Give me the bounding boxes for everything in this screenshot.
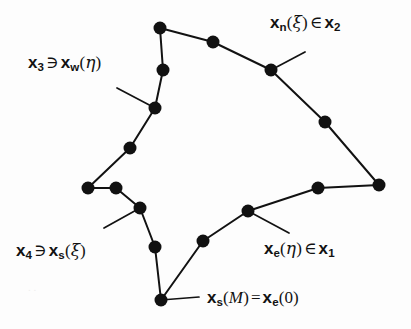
- node-bottom-apex: [155, 294, 168, 307]
- label-east-sub2: 1: [328, 247, 335, 259]
- label-north-operator: ∈: [308, 13, 325, 32]
- node-right-upper: [319, 116, 332, 129]
- label-south-operator: ∋: [32, 241, 49, 260]
- label-west-var2: xw: [61, 53, 80, 72]
- label-corner-arg2: 0: [284, 288, 293, 307]
- node-right-lower: [312, 182, 325, 195]
- label-west-boundary: x3∋xw(η): [28, 54, 101, 73]
- label-south-close: ): [80, 241, 86, 260]
- label-north-sub: n: [280, 21, 287, 33]
- label-east-var2: x1: [319, 239, 335, 258]
- label-east-operator: ∈: [302, 239, 319, 258]
- label-corner-close2: ): [293, 288, 299, 307]
- node-east: [242, 205, 255, 218]
- label-north-arg: ξ: [292, 12, 301, 32]
- node-left-corner: [82, 182, 95, 195]
- label-south-boundary: x4∋xs(ξ): [16, 242, 86, 261]
- label-south-arg: ξ: [71, 240, 80, 260]
- node-southeast: [197, 235, 210, 248]
- node-south-lower: [149, 241, 162, 254]
- node-left-upper: [157, 64, 170, 77]
- boundary-curve-svg: [0, 0, 411, 329]
- node-west: [149, 102, 162, 115]
- node-left-inner: [110, 182, 123, 195]
- label-west-close: ): [96, 53, 102, 72]
- boundary-nodes: [82, 22, 386, 307]
- label-corner-var2: xe: [263, 288, 279, 307]
- label-east-var: xe: [264, 239, 280, 258]
- leader-east: [248, 211, 289, 233]
- node-top-mid: [207, 36, 220, 49]
- scan-artifact: . .: [28, 281, 36, 293]
- label-east-arg: η: [286, 238, 296, 258]
- node-left-lower-mid: [124, 142, 137, 155]
- boundary-parametrization-figure: xn(ξ)∈x2 x3∋xw(η) x4∋xs(ξ) xe(η)∈x1 xs(M…: [0, 0, 411, 329]
- boundary-curve: [88, 28, 379, 300]
- leader-lines: [104, 52, 305, 300]
- label-south-var2: xs: [49, 241, 65, 260]
- label-east-boundary: xe(η)∈x1: [264, 240, 335, 259]
- label-west-operator: ∋: [44, 53, 61, 72]
- node-top-apex: [154, 22, 167, 35]
- label-corner-arg: M: [229, 288, 243, 307]
- node-right-corner: [373, 179, 386, 192]
- label-south-var: x4: [16, 241, 32, 260]
- label-north-sub2: 2: [334, 21, 341, 33]
- label-north-close: ): [302, 13, 308, 32]
- label-west-var: x3: [28, 53, 44, 72]
- label-north-boundary: xn(ξ)∈x2: [270, 14, 341, 33]
- label-corner-operator: =: [249, 288, 263, 307]
- label-corner-identity: xs(M)=xe(0): [207, 289, 299, 308]
- node-north: [265, 64, 278, 77]
- label-corner-var: xs: [207, 288, 223, 307]
- node-south: [134, 202, 147, 215]
- label-west-arg: η: [85, 52, 95, 72]
- label-north-var2: x2: [324, 13, 340, 32]
- label-north-var: xn: [270, 13, 287, 32]
